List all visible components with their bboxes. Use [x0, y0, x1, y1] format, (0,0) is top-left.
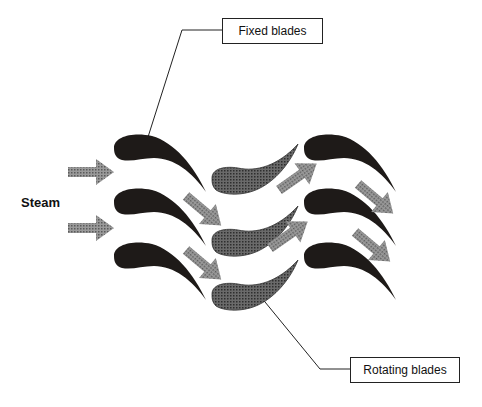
turbine-diagram — [0, 0, 482, 407]
fixed-blades-leader — [148, 30, 222, 137]
rotating-blades-leader — [256, 291, 350, 369]
steam-arrow-icon — [68, 215, 114, 241]
flow-arrow-icon — [178, 186, 230, 235]
steam-label: Steam — [21, 195, 60, 210]
rotating-blades-label: Rotating blades — [350, 357, 460, 383]
rotating-blades — [212, 144, 298, 310]
fixed-blades-stage-1 — [114, 135, 206, 301]
fixed-blades-stage-2 — [304, 135, 396, 301]
steam-arrow-icon — [68, 159, 114, 185]
fixed-blades-label: Fixed blades — [222, 18, 323, 44]
